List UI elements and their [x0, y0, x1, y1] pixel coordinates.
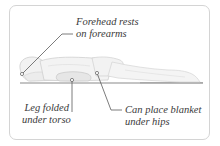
- annotation-blanket-line-1: Can place blanket: [125, 104, 201, 116]
- annotation-leg-line-1: Leg folded: [22, 102, 69, 114]
- annotation-leg-line-2: under torso: [22, 114, 69, 126]
- body-figure: [20, 57, 200, 82]
- annotation-leg: Leg folded under torso: [22, 102, 69, 126]
- annotation-blanket-line-2: under hips: [125, 116, 201, 128]
- annotation-forehead: Forehead rests on forearms: [76, 16, 139, 40]
- annotation-forehead-line-1: Forehead rests: [76, 16, 139, 28]
- annotation-blanket: Can place blanket under hips: [125, 104, 201, 128]
- annotation-forehead-line-2: on forearms: [76, 28, 139, 40]
- floor-line: [20, 82, 203, 84]
